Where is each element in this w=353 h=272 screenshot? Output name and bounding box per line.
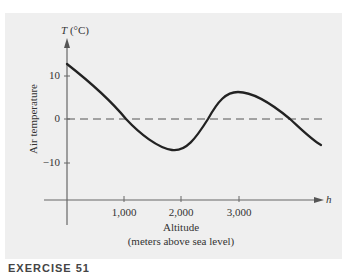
figure-caption: EXERCISE 51 — [8, 262, 90, 272]
y-axis-arrow-icon — [64, 38, 70, 48]
x-tick-label-3000: 3,000 — [214, 206, 264, 218]
x-tick-label-2000: 2,000 — [156, 206, 206, 218]
y-axis-symbol: T (°C) — [61, 24, 89, 36]
x-axis-title: Altitude — [131, 221, 231, 233]
x-axis-arrow-icon — [314, 197, 324, 203]
x-axis-symbol: h — [326, 193, 332, 205]
x-tick-label-1000: 1,000 — [99, 206, 149, 218]
temperature-curve — [67, 64, 321, 150]
y-axis-title: Air temperature — [27, 74, 39, 164]
x-axis-subtitle: (meters above sea level) — [111, 235, 251, 247]
